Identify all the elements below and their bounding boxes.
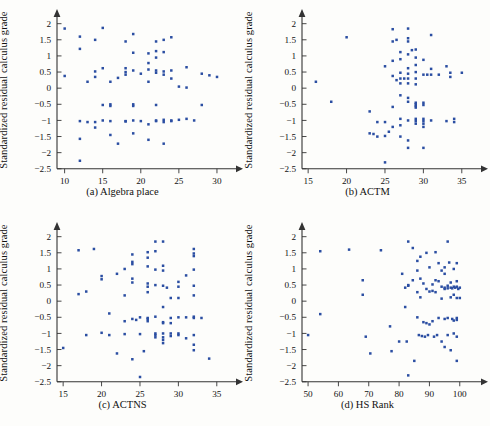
svg-text:−1.5: −1.5: [279, 132, 296, 142]
svg-text:90: 90: [425, 389, 435, 399]
svg-text:2: 2: [291, 232, 296, 242]
svg-text:60: 60: [334, 389, 344, 399]
panel-caption-c: (c) ACTNS: [0, 399, 245, 410]
svg-text:30: 30: [174, 389, 184, 399]
svg-text:−2: −2: [286, 148, 296, 158]
svg-text:−1.5: −1.5: [34, 345, 51, 355]
svg-text:1.5: 1.5: [285, 35, 297, 45]
svg-text:0: 0: [46, 83, 51, 93]
svg-text:1: 1: [291, 264, 296, 274]
svg-text:−1: −1: [286, 329, 296, 339]
svg-text:1.5: 1.5: [40, 248, 52, 258]
svg-text:15: 15: [98, 176, 108, 186]
svg-text:0.5: 0.5: [285, 280, 297, 290]
svg-text:−0.5: −0.5: [34, 99, 51, 109]
svg-text:1: 1: [291, 51, 296, 61]
plot-area-d: 506070809010021.510.50−0.5−1−1.5−2−2.5: [245, 213, 490, 403]
svg-text:80: 80: [394, 389, 404, 399]
svg-text:1.5: 1.5: [40, 35, 52, 45]
svg-text:−1.5: −1.5: [34, 132, 51, 142]
svg-text:−0.5: −0.5: [279, 99, 296, 109]
panel-caption-a: (a) Algebra place: [0, 186, 245, 197]
svg-text:15: 15: [304, 176, 314, 186]
svg-text:1.5: 1.5: [285, 248, 297, 258]
svg-text:100: 100: [453, 389, 467, 399]
svg-text:10: 10: [60, 176, 70, 186]
svg-text:−2: −2: [41, 361, 51, 371]
svg-text:35: 35: [457, 176, 467, 186]
svg-text:25: 25: [174, 176, 184, 186]
scatterplot-figure: Standardized residual calculus grade 101…: [0, 0, 490, 426]
svg-text:−2.5: −2.5: [279, 377, 296, 387]
svg-text:−2.5: −2.5: [34, 377, 51, 387]
svg-text:−1: −1: [41, 329, 51, 339]
svg-text:35: 35: [212, 389, 222, 399]
svg-text:−1: −1: [286, 116, 296, 126]
svg-text:−0.5: −0.5: [279, 312, 296, 322]
svg-text:2: 2: [291, 19, 296, 29]
svg-text:−1: −1: [41, 116, 51, 126]
svg-text:−2: −2: [41, 148, 51, 158]
panel-actns: Standardized residual calculus grade 152…: [0, 213, 245, 426]
svg-text:25: 25: [380, 176, 390, 186]
panel-actm: Standardized residual calculus grade 152…: [245, 0, 490, 213]
panel-caption-d: (d) HS Rank: [245, 399, 490, 410]
svg-text:1: 1: [46, 264, 51, 274]
svg-text:20: 20: [136, 176, 146, 186]
svg-text:70: 70: [364, 389, 374, 399]
svg-text:−0.5: −0.5: [34, 312, 51, 322]
svg-text:2: 2: [46, 232, 51, 242]
plot-area-c: 152025303521.510.50−0.5−1−1.5−2−2.5: [0, 213, 245, 403]
svg-text:0: 0: [291, 296, 296, 306]
svg-text:−1.5: −1.5: [279, 345, 296, 355]
svg-text:0.5: 0.5: [285, 67, 297, 77]
svg-text:20: 20: [342, 176, 352, 186]
svg-text:15: 15: [59, 389, 69, 399]
svg-text:0: 0: [291, 83, 296, 93]
svg-text:30: 30: [419, 176, 429, 186]
svg-text:2: 2: [46, 19, 51, 29]
plot-area-b: 152025303521.510.50−0.5−1−1.5−2−2.5: [245, 0, 490, 190]
panel-algebra-place: Standardized residual calculus grade 101…: [0, 0, 245, 213]
panel-caption-b: (b) ACTM: [245, 186, 490, 197]
svg-text:0.5: 0.5: [40, 67, 52, 77]
svg-text:25: 25: [135, 389, 145, 399]
svg-text:−2.5: −2.5: [279, 164, 296, 174]
panel-hs-rank: Standardized residual calculus grade 506…: [245, 213, 490, 426]
svg-text:50: 50: [303, 389, 313, 399]
svg-text:1: 1: [46, 51, 51, 61]
svg-text:20: 20: [97, 389, 107, 399]
svg-text:0.5: 0.5: [40, 280, 52, 290]
svg-text:−2: −2: [286, 361, 296, 371]
svg-text:30: 30: [212, 176, 222, 186]
svg-text:0: 0: [46, 296, 51, 306]
plot-area-a: 101520253021.510.50−0.5−1−1.5−2−2.5: [0, 0, 245, 190]
svg-text:−2.5: −2.5: [34, 164, 51, 174]
